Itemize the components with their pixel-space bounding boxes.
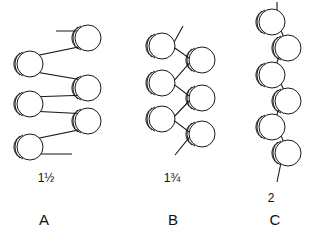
panel-b-unit xyxy=(186,85,215,111)
panel-label-c: C xyxy=(255,211,295,228)
panel-b-unit xyxy=(146,33,175,59)
panel-a-unit xyxy=(72,25,101,51)
panel-c-unit xyxy=(272,35,301,61)
helix-ratio-a: 1½ xyxy=(26,171,66,185)
panel-c-unit xyxy=(256,114,285,140)
panel-a-unit xyxy=(72,75,101,101)
figure-canvas: 1½ 1¾ 2 A B C xyxy=(0,0,316,246)
panel-a-unit xyxy=(72,108,101,134)
panel-a-unit xyxy=(14,134,43,160)
panel-b-unit xyxy=(186,47,215,73)
panel-a-unit xyxy=(14,51,43,77)
helix-conformation-figure xyxy=(0,0,316,246)
panel-b-diagram xyxy=(146,26,215,155)
panel-a-unit xyxy=(14,91,43,117)
panel-c-unit xyxy=(272,140,301,166)
panel-c-unit xyxy=(256,62,285,88)
panel-b-unit xyxy=(146,70,175,96)
panel-b-unit xyxy=(186,121,215,147)
panel-a-diagram xyxy=(14,25,101,160)
panel-c-unit xyxy=(272,88,301,114)
panel-c-unit xyxy=(256,9,285,35)
panel-label-b: B xyxy=(153,211,193,228)
helix-ratio-b: 1¾ xyxy=(152,171,192,185)
panel-label-a: A xyxy=(24,211,64,228)
panel-b-unit xyxy=(146,106,175,132)
helix-ratio-c: 2 xyxy=(256,191,286,205)
panel-c-diagram xyxy=(256,2,301,182)
